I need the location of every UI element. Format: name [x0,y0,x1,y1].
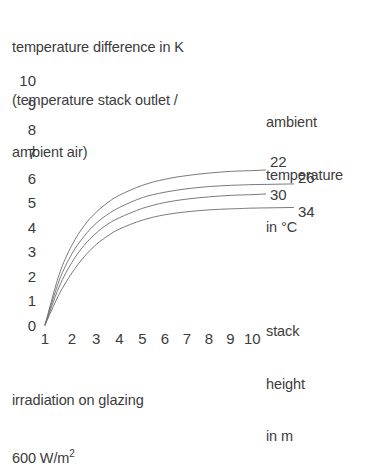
series-line-30 [45,195,252,325]
footnote-line-2: 600 W/m2 [12,445,144,467]
series-leader-26 [252,184,294,185]
series-leader-34 [252,207,294,208]
footnote-value: 600 W/m [12,449,69,465]
series-line-26 [45,185,252,325]
series-line-34 [45,208,252,325]
series-leader-22 [252,170,266,171]
footnote-exponent: 2 [69,448,74,459]
x-axis-title-line-3: in m [266,428,305,446]
series-leader-30 [252,194,266,195]
